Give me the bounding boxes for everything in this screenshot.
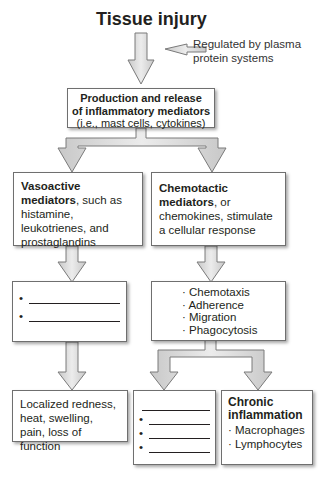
arrow-split-2 bbox=[150, 340, 272, 390]
side-note-line-2: protein systems bbox=[193, 51, 301, 65]
item-migration: · Migration bbox=[182, 311, 285, 324]
side-note-line-1: Regulated by plasma bbox=[193, 37, 301, 51]
item-lymphocytes: · Lymphocytes bbox=[228, 437, 306, 451]
arrow-split-1 bbox=[58, 128, 226, 172]
arrow-down-vasoactive bbox=[58, 246, 86, 282]
blank-line bbox=[149, 423, 210, 425]
item-phagocytosis: · Phagocytosis bbox=[182, 324, 285, 337]
acute-blank-box: • • • bbox=[133, 390, 216, 465]
blank-row-a: • bbox=[139, 411, 210, 425]
bullet: • bbox=[139, 441, 149, 453]
arrow-down-localized bbox=[58, 342, 86, 390]
blank-line bbox=[29, 320, 120, 322]
blank-line bbox=[149, 437, 210, 439]
blank-row-1: • bbox=[19, 290, 120, 304]
blank-row-b: • bbox=[139, 425, 210, 439]
chronic-list: · Macrophages · Lymphocytes bbox=[228, 423, 306, 451]
item-adherence: · Adherence bbox=[182, 299, 285, 312]
diagram-title: Tissue injury bbox=[96, 9, 207, 30]
chronic-title-2: inflammation bbox=[228, 409, 306, 422]
chemotactic-box: Chemotactic mediators, or chemokines, st… bbox=[151, 172, 286, 246]
bullet: • bbox=[139, 413, 149, 425]
vasoactive-effects-box: • • bbox=[12, 281, 127, 342]
production-subtitle: (i.e., mast cells, cytokines) bbox=[68, 117, 214, 130]
blank-row-c: • bbox=[139, 439, 210, 453]
production-box: Production and release of inflammatory m… bbox=[67, 88, 215, 128]
blank-line bbox=[149, 451, 210, 453]
production-title-2: of inflammatory mediators bbox=[68, 105, 214, 118]
bullet: • bbox=[139, 427, 149, 439]
chronic-box: Chronic inflammation · Macrophages · Lym… bbox=[221, 390, 313, 465]
side-note: Regulated by plasma protein systems bbox=[193, 37, 301, 65]
blank-line bbox=[29, 302, 120, 304]
production-title-1: Production and release bbox=[68, 92, 214, 105]
bullet: • bbox=[19, 292, 29, 304]
cellular-response-box: · Chemotaxis · Adherence · Migration · P… bbox=[151, 281, 286, 341]
item-chemotaxis: · Chemotaxis bbox=[182, 286, 285, 299]
localized-box: Localized redness, heat, swelling, pain,… bbox=[12, 390, 128, 442]
bullet: • bbox=[19, 310, 29, 322]
item-macrophages: · Macrophages bbox=[228, 423, 306, 437]
vasoactive-title: Vasoactive mediators bbox=[21, 180, 80, 206]
blank-row-2: • bbox=[19, 308, 120, 322]
cellular-response-list: · Chemotaxis · Adherence · Migration · P… bbox=[182, 286, 285, 336]
vasoactive-box: Vasoactive mediators, such as histamine,… bbox=[13, 172, 143, 246]
arrow-down-chemotactic bbox=[197, 246, 225, 282]
arrow-down-main bbox=[128, 33, 154, 84]
